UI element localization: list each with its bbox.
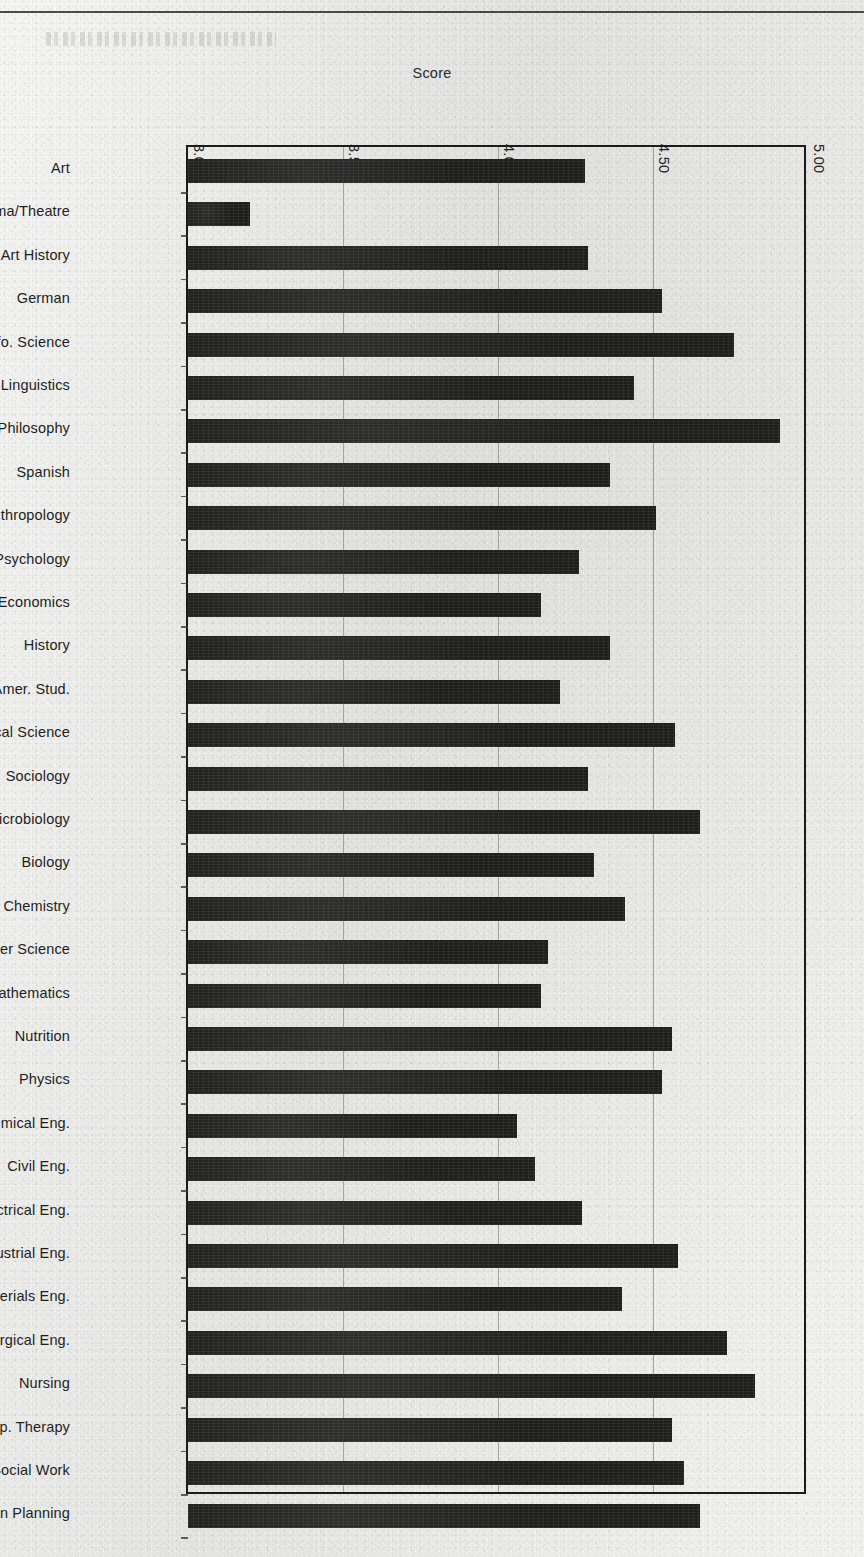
bar <box>188 1287 622 1311</box>
y-tick-mark <box>181 669 188 671</box>
category-label: Electrical Eng. <box>0 1202 70 1218</box>
y-tick-mark <box>181 800 188 802</box>
y-tick-mark <box>181 1320 188 1322</box>
y-tick-mark <box>181 1407 188 1409</box>
y-tick-mark <box>181 235 188 237</box>
category-label: Physics <box>0 1071 70 1087</box>
y-tick-mark <box>181 973 188 975</box>
bar <box>188 419 780 443</box>
x-axis-tick-labels: 3.003.504.004.505.00 <box>0 92 864 144</box>
y-tick-mark <box>181 756 188 758</box>
bar <box>188 333 734 357</box>
bar <box>188 723 675 747</box>
y-tick-mark <box>181 409 188 411</box>
y-tick-mark <box>181 843 188 845</box>
category-label: Social Work <box>0 1462 70 1478</box>
category-label: Child Psychology <box>0 551 70 567</box>
bar <box>188 810 700 834</box>
plot-area <box>186 145 806 1494</box>
category-label: Linguistics <box>0 377 70 393</box>
bar <box>188 853 594 877</box>
y-tick-mark <box>181 279 188 281</box>
y-tick-mark <box>181 1017 188 1019</box>
y-tick-mark <box>181 1190 188 1192</box>
x-tick-label: 5.00 <box>811 144 827 173</box>
bar <box>188 463 610 487</box>
bar <box>188 1027 672 1051</box>
category-label: Art <box>0 160 70 176</box>
category-label: Microbiology <box>0 811 70 827</box>
category-label: Nursing <box>0 1375 70 1391</box>
bar <box>188 1461 684 1485</box>
scanned-chart-page: Score 3.003.504.004.505.00 ArtDrama/Thea… <box>0 0 864 1557</box>
category-label: German <box>0 290 70 306</box>
bar <box>188 1418 672 1442</box>
bar <box>188 940 548 964</box>
category-label: History <box>0 637 70 653</box>
y-tick-mark <box>181 1364 188 1366</box>
y-tick-mark <box>181 1103 188 1105</box>
bar <box>188 897 625 921</box>
y-tick-mark <box>181 192 188 194</box>
y-tick-mark <box>181 1277 188 1279</box>
category-label: Latin Amer. Stud. <box>0 681 70 697</box>
category-label: Anthropology <box>0 507 70 523</box>
bar <box>188 289 662 313</box>
category-label: Nutrition <box>0 1028 70 1044</box>
page-top-rule <box>0 11 864 13</box>
bar <box>188 680 560 704</box>
bar <box>188 159 585 183</box>
bar <box>188 202 250 226</box>
bar <box>188 1331 727 1355</box>
y-tick-mark <box>181 1537 188 1539</box>
y-tick-mark <box>181 1451 188 1453</box>
y-tick-mark <box>181 583 188 585</box>
category-label: Mathematics <box>0 985 70 1001</box>
y-tick-mark <box>181 322 188 324</box>
category-label: Sociology <box>0 768 70 784</box>
category-label: Industrial Eng. <box>0 1245 70 1261</box>
bar <box>188 1114 517 1138</box>
category-label: Metallurgical Eng. <box>0 1332 70 1348</box>
bar <box>188 1157 535 1181</box>
category-label: Materials Eng. <box>0 1288 70 1304</box>
y-tick-mark <box>181 452 188 454</box>
category-label: Philosophy <box>0 420 70 436</box>
bar <box>188 550 579 574</box>
y-tick-mark <box>181 713 188 715</box>
bar <box>188 1504 700 1528</box>
category-label: Biology <box>0 854 70 870</box>
category-label: Computer Science <box>0 941 70 957</box>
y-tick-mark <box>181 539 188 541</box>
category-label: Info. Science <box>0 334 70 350</box>
bar <box>188 767 588 791</box>
x-axis-title: Score <box>0 65 864 81</box>
y-tick-mark <box>181 1060 188 1062</box>
bar <box>188 506 656 530</box>
bar <box>188 1070 662 1094</box>
category-label: Civil Eng. <box>0 1158 70 1174</box>
bleed-through-artifact <box>46 32 276 46</box>
bar <box>188 593 541 617</box>
category-label: Spanish <box>0 464 70 480</box>
bar <box>188 636 610 660</box>
category-label: Occup. Therapy <box>0 1419 70 1435</box>
y-tick-mark <box>181 366 188 368</box>
bar <box>188 1201 582 1225</box>
category-label: Urban Planning <box>0 1505 70 1521</box>
y-tick-mark <box>181 1234 188 1236</box>
bar <box>188 376 634 400</box>
y-tick-mark <box>181 930 188 932</box>
bar <box>188 1374 755 1398</box>
category-label: Chemical Eng. <box>0 1115 70 1131</box>
category-label: Political Science <box>0 724 70 740</box>
y-tick-mark <box>181 1494 188 1496</box>
category-label: Chemistry <box>0 898 70 914</box>
y-tick-mark <box>181 496 188 498</box>
y-tick-mark <box>181 626 188 628</box>
bar <box>188 984 541 1008</box>
y-tick-mark <box>181 886 188 888</box>
category-label: Drama/Theatre <box>0 203 70 219</box>
category-label: Art History <box>0 247 70 263</box>
y-tick-mark <box>181 1147 188 1149</box>
